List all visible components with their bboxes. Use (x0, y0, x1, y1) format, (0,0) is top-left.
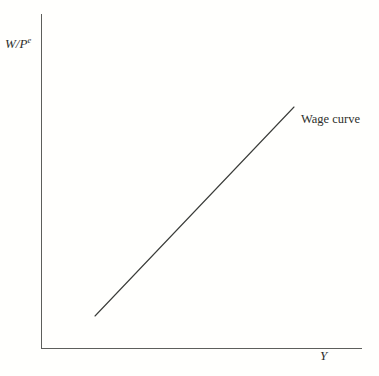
y-axis-line (41, 14, 42, 349)
y-axis-label-superscript: e (27, 35, 31, 45)
x-axis-label: Y (320, 349, 327, 362)
x-axis-line (41, 348, 362, 349)
wage-curve-line (95, 107, 294, 316)
chart-plot-area (0, 0, 379, 376)
y-axis-label-text: W/P (5, 36, 27, 51)
wage-curve-figure: W/Pe Y Wage curve (0, 0, 379, 376)
wage-curve-annotation-label: Wage curve (301, 113, 360, 126)
y-axis-label: W/Pe (5, 36, 31, 50)
